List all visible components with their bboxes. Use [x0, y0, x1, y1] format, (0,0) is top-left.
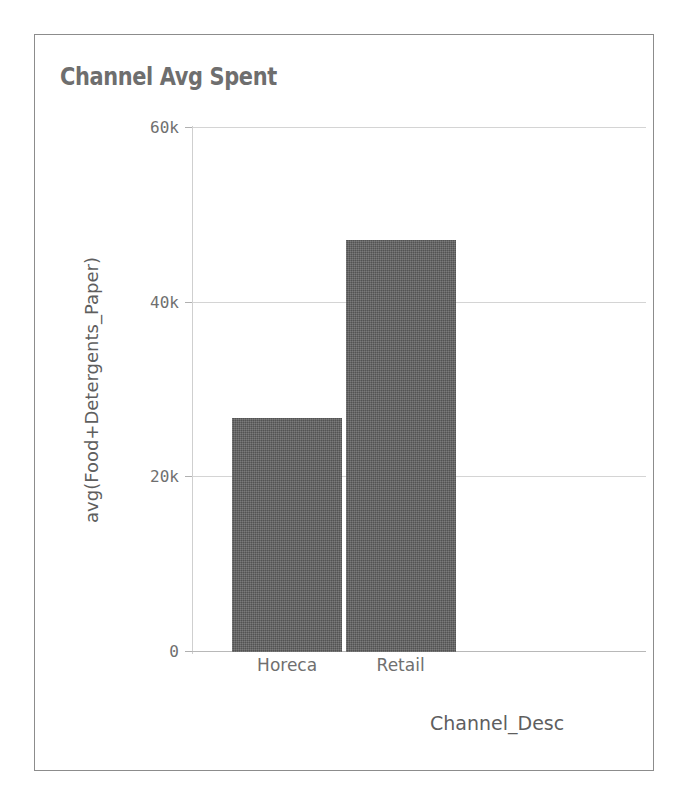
y-tick-mark — [185, 302, 192, 303]
x-tick-label-retail: Retail — [377, 655, 425, 675]
chart-title: Channel Avg Spent — [60, 62, 277, 91]
y-gridline: 60k — [192, 127, 646, 128]
y-tick-label: 60k — [150, 118, 179, 137]
y-tick-label: 0 — [169, 642, 179, 661]
x-tick-label-horeca: Horeca — [257, 655, 317, 675]
plot-area: 020k40k60kHorecaRetail — [192, 128, 646, 652]
y-axis-title: avg(Food+Detergents_Paper) — [81, 257, 102, 523]
y-tick-label: 40k — [150, 292, 179, 311]
y-tick-label: 20k — [150, 467, 179, 486]
y-tick-mark — [185, 127, 192, 128]
chart-frame: Channel Avg Spent 020k40k60kHorecaRetail… — [34, 34, 654, 771]
x-axis-title: Channel_Desc — [430, 712, 564, 734]
y-tick-mark — [185, 476, 192, 477]
bar-retail[interactable] — [346, 240, 456, 652]
y-tick-mark — [185, 651, 192, 652]
bar-horeca[interactable] — [232, 418, 342, 652]
